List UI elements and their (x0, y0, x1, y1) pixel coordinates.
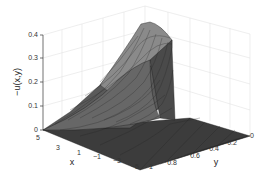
y-tick-0.2: 0.2 (227, 139, 237, 146)
surface-plot: 0.4 0.3 0.2 0.1 0 −u(x,y) 5 3 1 −1 −3 −5… (0, 0, 266, 179)
x-tick-neg5: −5 (131, 163, 139, 170)
y-tick-0: 0 (250, 132, 254, 139)
y-tick-0.4: 0.4 (209, 145, 219, 152)
z-tick-0.1: 0.1 (28, 102, 38, 109)
x-tick-5: 5 (36, 134, 40, 141)
y-tick-1: 1 (149, 163, 153, 170)
x-tick-1: 1 (77, 149, 81, 156)
z-tick-0.4: 0.4 (28, 31, 38, 38)
x-tick-neg1: −1 (93, 153, 101, 160)
z-tick-0.2: 0.2 (28, 78, 38, 85)
z-axis (40, 35, 43, 130)
surface (43, 22, 250, 170)
x-tick-3: 3 (56, 144, 60, 151)
x-axis-label: x (70, 157, 75, 167)
y-tick-0.6: 0.6 (190, 152, 200, 159)
y-tick-0.8: 0.8 (167, 159, 177, 166)
z-tick-0.3: 0.3 (28, 54, 38, 61)
x-tick-neg3: −3 (113, 157, 121, 164)
z-axis-label: −u(x,y) (12, 68, 22, 96)
y-axis-label: y (214, 157, 219, 167)
z-tick-0: 0 (34, 126, 38, 133)
